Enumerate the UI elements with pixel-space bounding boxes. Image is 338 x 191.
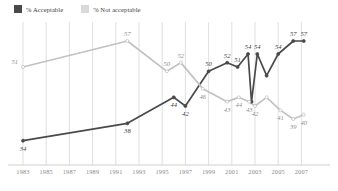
series-point-labels: 3438444250525154545457575157505246434443… <box>11 30 307 152</box>
legend-swatch-not-acceptable <box>81 5 89 13</box>
data-point-marker <box>292 118 295 121</box>
x-tick-1993: 1993 <box>132 168 145 175</box>
plot-area: 3438444250525154545457575157505246434443… <box>0 20 338 166</box>
x-tick-1985: 1985 <box>39 168 52 175</box>
data-point-label: 46 <box>200 93 207 100</box>
data-point-label: 39 <box>289 123 297 130</box>
data-point-label: 41 <box>277 114 284 121</box>
data-point-label: 54 <box>275 43 282 50</box>
data-point-marker <box>265 74 268 77</box>
data-point-label: 51 <box>11 58 18 65</box>
data-point-label: 54 <box>254 43 261 50</box>
data-point-label: 44 <box>171 101 178 108</box>
plot-svg: 3438444250525154545457575157505246434443… <box>0 20 338 166</box>
x-tick-2007: 2007 <box>295 168 308 175</box>
data-point-label: 34 <box>19 145 27 152</box>
data-point-label: 51 <box>234 56 241 63</box>
data-point-marker <box>279 109 282 112</box>
legend-swatch-acceptable <box>14 5 22 13</box>
data-point-label: 50 <box>205 60 212 67</box>
x-tick-1999: 1999 <box>202 168 215 175</box>
data-point-label: 54 <box>245 43 252 50</box>
x-axis-ticks: 1983198519871989199119931995199719992001… <box>0 168 338 184</box>
data-point-marker <box>302 113 305 116</box>
x-tick-2005: 2005 <box>271 168 284 175</box>
data-point-marker <box>126 122 129 125</box>
data-point-marker <box>248 100 251 103</box>
data-point-marker <box>207 70 210 73</box>
data-point-label: 57 <box>300 30 307 37</box>
data-point-label: 57 <box>124 30 131 37</box>
data-point-marker <box>172 96 175 99</box>
legend-label-acceptable: % Acceptable <box>26 6 63 13</box>
x-tick-1991: 1991 <box>109 168 122 175</box>
data-point-marker <box>184 105 187 108</box>
x-tick-1987: 1987 <box>63 168 76 175</box>
data-point-label: 52 <box>177 52 184 59</box>
data-point-marker <box>226 100 229 103</box>
data-point-label: 42 <box>182 110 189 117</box>
data-point-label: 50 <box>164 60 171 67</box>
data-point-marker <box>237 96 240 99</box>
data-point-label: 42 <box>252 110 259 117</box>
data-point-marker <box>179 61 182 64</box>
legend-item-acceptable: % Acceptable <box>14 5 63 13</box>
data-point-label: 38 <box>123 127 131 134</box>
data-point-marker <box>292 40 295 43</box>
data-point-marker <box>256 53 259 56</box>
data-point-marker <box>22 139 25 142</box>
x-tick-1997: 1997 <box>179 168 192 175</box>
chart-root: % Acceptable % Not acceptable 3438444250… <box>0 0 338 191</box>
series-lines <box>23 41 304 141</box>
legend-item-not-acceptable: % Not acceptable <box>81 5 140 13</box>
data-point-marker <box>265 96 268 99</box>
x-tick-2003: 2003 <box>248 168 261 175</box>
data-point-marker <box>277 53 280 56</box>
data-point-marker <box>236 66 239 69</box>
chart-legend: % Acceptable % Not acceptable <box>14 3 141 15</box>
series-markers <box>22 40 306 143</box>
data-point-marker <box>254 105 257 108</box>
data-point-label: 40 <box>300 119 307 126</box>
legend-label-not-acceptable: % Not acceptable <box>93 6 140 13</box>
data-point-label: 52 <box>224 52 231 59</box>
series-line-not-acceptable <box>23 41 304 119</box>
x-tick-1995: 1995 <box>155 168 168 175</box>
data-point-marker <box>165 70 168 73</box>
x-tick-2001: 2001 <box>225 168 238 175</box>
data-point-label: 44 <box>235 101 242 108</box>
x-tick-1983: 1983 <box>16 168 29 175</box>
data-point-marker <box>247 53 250 56</box>
data-point-marker <box>226 61 229 64</box>
data-point-label: 57 <box>290 30 297 37</box>
data-point-marker <box>201 87 204 90</box>
data-point-marker <box>302 40 305 43</box>
data-point-marker <box>22 66 25 69</box>
data-point-marker <box>126 40 129 43</box>
x-tick-1989: 1989 <box>86 168 99 175</box>
data-point-label: 43 <box>224 106 231 113</box>
